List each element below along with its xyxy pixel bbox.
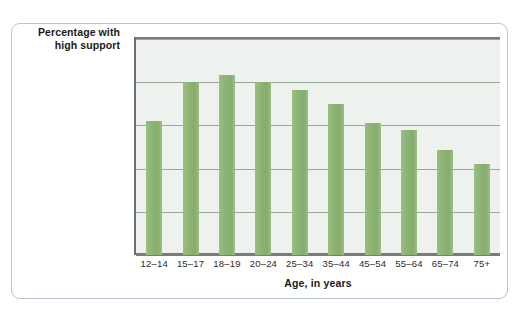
y-axis-title-line-2: high support — [14, 39, 120, 52]
x-tick-label: 45–54 — [359, 258, 386, 269]
bar — [183, 82, 199, 255]
x-tick-label: 55–64 — [395, 258, 422, 269]
plot-area — [136, 37, 500, 255]
x-tick-label: 35–44 — [322, 258, 349, 269]
x-tick-label: 75+ — [473, 258, 490, 269]
gridline-100 — [136, 39, 500, 40]
bar — [146, 121, 162, 255]
bar — [292, 90, 308, 255]
bar — [474, 164, 490, 255]
x-tick-label: 12–14 — [140, 258, 167, 269]
bar — [437, 150, 453, 255]
x-tick-label: 25–34 — [286, 258, 313, 269]
x-tick-label: 65–74 — [432, 258, 459, 269]
y-axis-title-line-1: Percentage with — [14, 26, 120, 39]
plot-inner — [136, 39, 500, 255]
x-axis-title: Age, in years — [136, 277, 500, 289]
x-tick-label: 15–17 — [177, 258, 204, 269]
bar — [328, 104, 344, 255]
y-axis-title: Percentage with high support — [14, 26, 120, 52]
x-tick-label: 20–24 — [250, 258, 277, 269]
x-tick-label: 18–19 — [213, 258, 240, 269]
bar — [365, 123, 381, 255]
bar — [219, 75, 235, 255]
bar — [401, 130, 417, 255]
bar — [255, 82, 271, 255]
